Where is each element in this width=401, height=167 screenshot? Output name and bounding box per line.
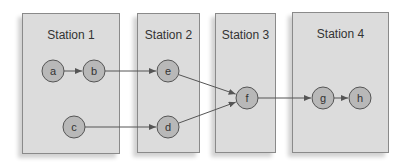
node-g: g [312,87,334,109]
node-label: a [50,65,57,77]
node-label: h [357,92,363,104]
node-label: e [165,65,171,77]
node-label: d [165,121,171,133]
node-d: d [157,116,179,138]
node-label: c [71,121,77,133]
node-h: h [349,87,371,109]
node-a: a [42,60,64,82]
node-f: f [236,87,258,109]
edge-e-f [178,75,235,95]
edge-d-f [178,102,235,123]
node-e: e [157,60,179,82]
node-c: c [63,116,85,138]
node-b: b [83,60,105,82]
precedence-graph: abecdfgh [0,0,401,167]
node-label: b [91,65,97,77]
node-label: g [320,92,326,104]
